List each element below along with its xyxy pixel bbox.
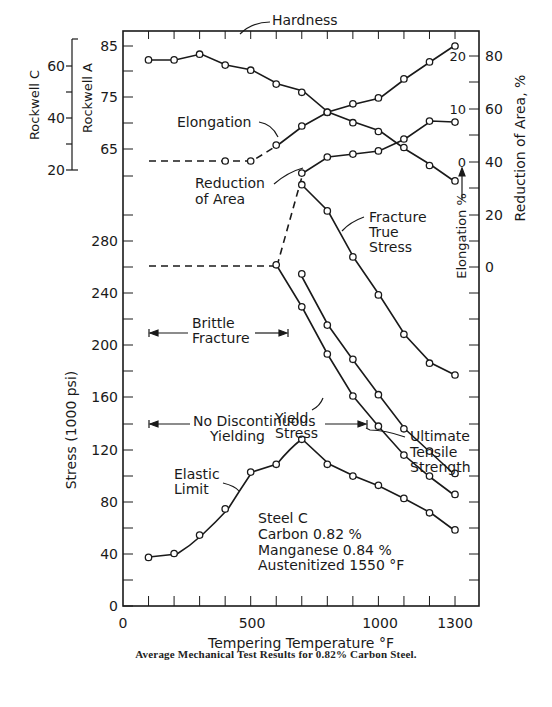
data-point	[273, 461, 279, 467]
rockwell-a-tick-75: 75	[100, 89, 118, 105]
elastic-limit-label-1: Elastic	[174, 466, 220, 482]
hardness-leader	[240, 22, 270, 34]
data-point	[350, 151, 356, 157]
stress-tick-0: 0	[109, 598, 118, 614]
data-point	[299, 304, 305, 310]
data-point	[324, 208, 330, 214]
reduction-label-2: of Area	[195, 191, 245, 207]
rockwell-c-tick-60: 60	[47, 58, 65, 74]
stress-axis-ticks	[123, 176, 133, 606]
rockwell-c-axis	[66, 39, 78, 170]
ra-tick-20: 20	[485, 207, 503, 223]
x-tick-1000: 1000	[362, 615, 398, 631]
data-point	[350, 473, 356, 479]
rockwell-c-tick-20: 20	[47, 162, 65, 178]
data-point	[401, 452, 407, 458]
chart-canvas: 0 500 1000 1300 Tempering Temperature °F…	[0, 0, 552, 707]
uts-label-2: Tensile	[409, 444, 457, 460]
carbon-label: Carbon 0.82 %	[258, 526, 362, 542]
x-tick-500: 500	[239, 615, 266, 631]
data-point	[401, 144, 407, 150]
fracture-label-3: Stress	[369, 239, 412, 255]
x-tick-0: 0	[119, 615, 128, 631]
data-point	[248, 469, 254, 475]
stress-tick-120: 120	[91, 442, 118, 458]
austenitized-label: Austenitized 1550 °F	[258, 557, 404, 573]
elongation-dashed-line	[149, 145, 278, 161]
elongation-leader	[259, 122, 278, 137]
data-point	[350, 120, 356, 126]
data-point	[452, 527, 458, 533]
elongation-axis-title: Elongation %	[454, 193, 469, 279]
data-point	[375, 423, 381, 429]
rockwell-a-tick-85: 85	[100, 38, 118, 54]
stress-axis-title: Stress (1000 psi)	[63, 371, 79, 490]
yield-leader	[312, 398, 323, 410]
data-point	[324, 351, 330, 357]
data-point	[426, 510, 432, 516]
data-point	[171, 57, 177, 63]
stress-tick-240: 240	[91, 285, 118, 301]
uts-label-1: Ultimate	[410, 428, 470, 444]
data-point	[273, 81, 279, 87]
data-point	[401, 495, 407, 501]
data-point	[375, 128, 381, 134]
data-point	[426, 59, 432, 65]
data-point	[299, 123, 305, 129]
reduction-leader	[274, 168, 303, 184]
data-point	[324, 154, 330, 160]
x-axis-top-ticks	[149, 31, 455, 39]
hardness-label: Hardness	[272, 12, 338, 28]
data-point	[452, 119, 458, 125]
data-point	[145, 554, 151, 560]
data-point	[401, 76, 407, 82]
rockwell-c-axis-title: Rockwell C	[27, 70, 42, 140]
data-point	[375, 148, 381, 154]
right-axis-ticks	[469, 56, 479, 580]
data-point	[350, 101, 356, 107]
data-point	[248, 158, 254, 164]
elastic-limit-label-2: Limit	[174, 481, 209, 497]
fracture-leader	[342, 217, 364, 231]
data-point	[222, 506, 228, 512]
reduction-label-1: Reduction	[195, 175, 265, 191]
rockwell-a-axis-title: Rockwell A	[80, 63, 95, 133]
uts-label-3: Strength	[410, 459, 471, 475]
data-point	[350, 393, 356, 399]
rockwell-a-ticks	[123, 46, 133, 149]
data-point	[324, 322, 330, 328]
x-tick-1300: 1300	[437, 615, 473, 631]
manganese-label: Manganese 0.84 %	[258, 542, 392, 558]
fracture-label-1: Fracture	[369, 209, 427, 225]
data-point	[273, 142, 279, 148]
elongation-tick-20: 20	[449, 49, 466, 64]
elastic-limit-leader	[223, 483, 239, 491]
x-axis-ticks	[149, 596, 455, 606]
brittle-label-2: Fracture	[192, 330, 250, 346]
data-point	[426, 360, 432, 366]
data-point	[324, 109, 330, 115]
data-point	[375, 392, 381, 398]
data-point	[452, 43, 458, 49]
ra-tick-80: 80	[485, 48, 503, 64]
data-point	[452, 372, 458, 378]
uts-leader	[366, 428, 405, 437]
data-point	[299, 170, 305, 176]
fracture-label-2: True	[368, 224, 399, 240]
steel-label: Steel C	[258, 510, 308, 526]
data-point	[401, 426, 407, 432]
data-point	[196, 532, 202, 538]
data-point	[145, 57, 151, 63]
ra-axis-title: Reduction of Area, %	[512, 75, 528, 222]
data-point	[196, 51, 202, 57]
data-point	[426, 162, 432, 168]
data-point	[273, 262, 279, 268]
ra-tick-60: 60	[485, 101, 503, 117]
data-point	[401, 331, 407, 337]
stress-tick-280: 280	[91, 233, 118, 249]
data-point	[452, 178, 458, 184]
ra-tick-40: 40	[485, 154, 503, 170]
no-discontinuous-label-2: Yielding	[209, 428, 265, 444]
data-point	[299, 89, 305, 95]
data-point	[222, 62, 228, 68]
